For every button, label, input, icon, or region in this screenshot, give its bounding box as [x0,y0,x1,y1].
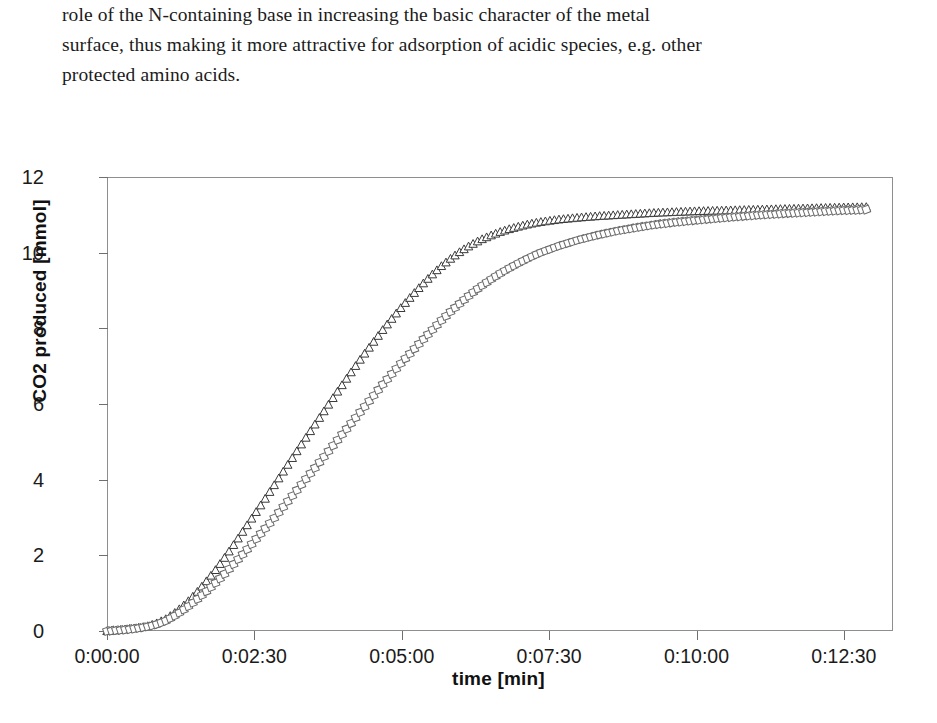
chart-plot-svg [0,140,937,723]
series-triangles [103,203,871,635]
paragraph-line-1: surface, thus making it more attractive … [62,30,872,60]
co2-production-chart: 024681012 0:00:000:02:300:05:000:07:300:… [0,140,937,723]
paragraph-line-2: protected amino acids. [62,60,872,90]
x-axis-title: time [min] [0,668,937,690]
body-paragraph: role of the N-containing base in increas… [62,0,872,90]
paragraph-line-0: role of the N-containing base in increas… [62,0,872,30]
scanned-page: role of the N-containing base in increas… [0,0,937,723]
y-axis-title: CO2 produced [mmol] [29,81,51,521]
